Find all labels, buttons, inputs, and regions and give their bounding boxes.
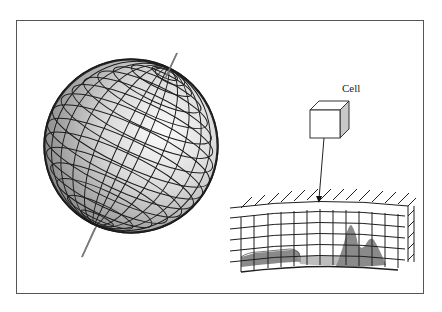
pointer-arrow bbox=[316, 138, 324, 203]
globe bbox=[17, 32, 246, 261]
cell-label: Cell bbox=[342, 82, 360, 94]
grid-section bbox=[230, 189, 416, 272]
cell-cube bbox=[310, 101, 349, 138]
diagram-canvas bbox=[0, 0, 442, 312]
